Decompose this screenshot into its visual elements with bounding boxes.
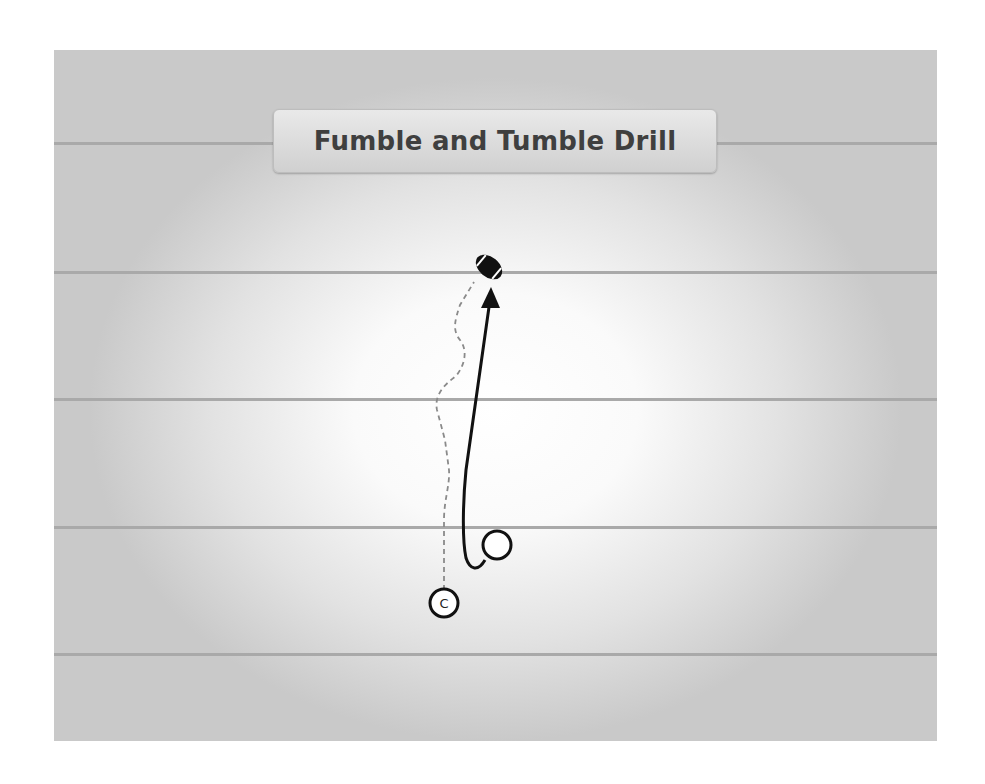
solid-run-route: [463, 307, 489, 568]
player-circle: [483, 531, 511, 559]
dashed-toss-route: [436, 282, 474, 590]
play-diagram: C: [0, 0, 985, 784]
football-icon: [471, 250, 507, 285]
arrowhead-icon: [481, 287, 500, 308]
coach-label: C: [439, 596, 448, 611]
